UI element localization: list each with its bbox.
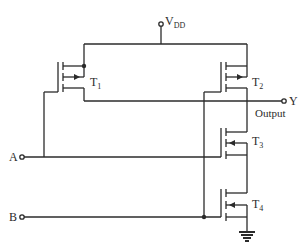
ground-icon (239, 232, 255, 241)
output-terminal: Y Output (84, 94, 298, 119)
svg-text:T3: T3 (252, 134, 263, 150)
arrow-icon (229, 202, 235, 208)
input-b: B (9, 210, 221, 224)
svg-text:T4: T4 (252, 197, 263, 213)
svg-text:T2: T2 (252, 75, 263, 91)
input-a: A (9, 150, 221, 164)
transistor-t4: T4 (221, 189, 263, 232)
cmos-nand-schematic: VDD T1 T2 (0, 0, 306, 245)
vdd-terminal: VDD (159, 14, 186, 44)
vdd-label: VDD (165, 14, 185, 30)
arrow-icon (74, 74, 80, 80)
arrow-icon (229, 140, 235, 146)
svg-text:B: B (9, 210, 17, 224)
arrow-icon (237, 74, 243, 80)
svg-text:Y: Y (289, 94, 298, 108)
transistor-t3: T3 (221, 128, 263, 193)
output-caption: Output (255, 107, 286, 119)
transistor-t1: T1 (44, 44, 101, 101)
svg-text:T1: T1 (90, 75, 101, 91)
svg-text:A: A (9, 150, 18, 164)
